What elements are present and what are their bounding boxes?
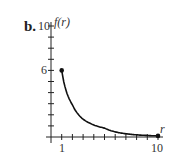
y-axis xyxy=(48,22,54,143)
endpoint-dots xyxy=(59,68,160,138)
chart: 10 6 1 10 f(r) r xyxy=(0,0,175,159)
endpoint-dot xyxy=(156,134,161,139)
x-tick-1: 1 xyxy=(59,141,65,155)
curve-line xyxy=(62,70,158,135)
x-axis-label: r xyxy=(160,122,165,136)
y-axis-label: f(r) xyxy=(54,15,70,29)
y-tick-10: 10 xyxy=(38,19,50,33)
y-tick-6: 6 xyxy=(41,63,47,77)
endpoint-dot xyxy=(59,68,64,73)
x-tick-10: 10 xyxy=(151,141,163,155)
